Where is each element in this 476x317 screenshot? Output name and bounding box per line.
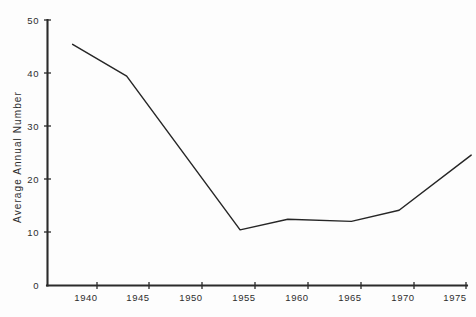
y-tick-label-40: 40 [27,68,39,79]
x-tick-label-1945: 1945 [126,292,149,303]
y-tick-label-50: 50 [27,15,39,26]
x-tick-label-1970: 1970 [391,292,414,303]
data-series-line [73,44,472,230]
y-axis-title: Average Annual Number [12,91,23,223]
y-tick-label-10: 10 [27,227,39,238]
x-tick-label-1965: 1965 [338,292,361,303]
y-tick-label-30: 30 [27,121,39,132]
x-tick-label-1940: 1940 [74,292,97,303]
x-tick-label-1960: 1960 [285,292,308,303]
x-tick-label-1950: 1950 [179,292,202,303]
line-chart: 50 40 30 20 10 0 1940 1945 1950 1955 196… [0,0,476,317]
y-tick-label-0: 0 [33,280,39,291]
x-tick-label-1975: 1975 [443,292,466,303]
x-tick-label-1955: 1955 [232,292,255,303]
chart-container: 50 40 30 20 10 0 1940 1945 1950 1955 196… [0,0,476,317]
y-tick-label-20: 20 [27,174,39,185]
